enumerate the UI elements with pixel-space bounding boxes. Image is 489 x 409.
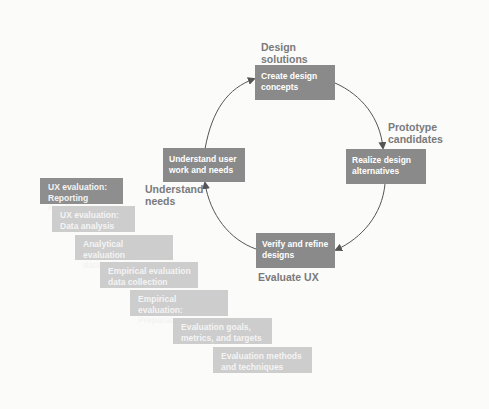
stair-data-analysis: UX evaluation: Data analysis xyxy=(52,206,135,232)
box-create-design-concepts: Create design concepts xyxy=(255,65,335,100)
stair-line: Evaluation goals, xyxy=(181,322,266,333)
stair-line: data collection xyxy=(108,277,192,288)
stair-analytical-data-collection: Analytical evaluation data collection xyxy=(75,235,173,260)
stair-reporting-results: UX evaluation: Reporting results xyxy=(40,178,123,204)
box-realize-design-alternatives: Realize design alternatives xyxy=(346,149,426,184)
label-evaluate-ux: Evaluate UX xyxy=(258,271,319,283)
stair-line: Analytical evaluation xyxy=(83,239,167,260)
stair-empirical-data-collection: Empirical evaluation data collection xyxy=(100,262,198,288)
box-line: work and needs xyxy=(169,165,239,176)
box-understand-user-work: Understand user work and needs xyxy=(163,148,245,182)
box-line: designs xyxy=(262,250,329,261)
label-line: candidates xyxy=(388,133,443,145)
stair-line: UX evaluation: xyxy=(48,182,117,193)
box-verify-refine-designs: Verify and refine designs xyxy=(256,233,335,268)
box-line: Realize design xyxy=(352,155,420,166)
label-prototype-candidates: Prototype candidates xyxy=(388,121,443,145)
label-line: Prototype xyxy=(388,121,443,133)
label-line: needs xyxy=(145,195,203,207)
label-understand-needs: Understand needs xyxy=(145,183,203,207)
box-line: Understand user xyxy=(169,154,239,165)
stair-empirical-preparation: Empirical evaluation: Preparation xyxy=(130,290,228,316)
label-line: solutions xyxy=(261,53,308,65)
stair-line: metrics, and targets xyxy=(181,333,266,344)
stair-line: Data analysis xyxy=(60,221,129,232)
stair-line: Empirical evaluation xyxy=(108,266,192,277)
box-line: Create design xyxy=(261,71,329,82)
label-line: Design xyxy=(261,41,308,53)
label-design-solutions: Design solutions xyxy=(261,41,308,65)
stair-goals-metrics-targets: Evaluation goals, metrics, and targets xyxy=(173,318,272,344)
stair-line: and techniques xyxy=(221,362,306,373)
label-line: Understand xyxy=(145,183,203,195)
box-line: Verify and refine xyxy=(262,239,329,250)
box-line: concepts xyxy=(261,82,329,93)
stair-line: UX evaluation: xyxy=(60,210,129,221)
stair-methods-techniques: Evaluation methods and techniques xyxy=(213,347,312,373)
stair-line: Evaluation methods xyxy=(221,351,306,362)
box-line: alternatives xyxy=(352,166,420,177)
stair-line: Empirical evaluation: xyxy=(138,294,222,315)
